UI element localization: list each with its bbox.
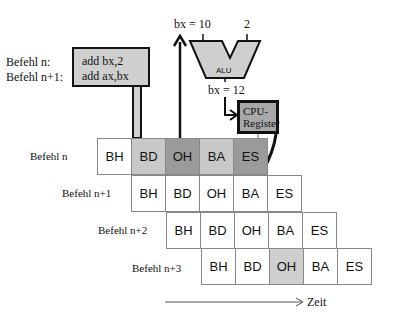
stage-cell: BH (131, 175, 166, 212)
stage-cell: BD (165, 175, 200, 212)
register-label-line2: Register (243, 117, 276, 129)
stage-cell: OH (165, 138, 200, 175)
row-label-n: Befehl n (30, 150, 68, 162)
stage-cell: BH (97, 138, 132, 175)
cpu-register-box: CPU- Register (237, 100, 279, 134)
pipeline-row-n3: BH BD OH BA ES (201, 248, 372, 285)
pipeline-row-n2: BH BD OH BA ES (166, 212, 337, 249)
stage-cell: OH (234, 212, 269, 249)
stage-cell: BA (303, 248, 338, 285)
stage-cell: ES (233, 138, 268, 175)
operand-up-arrow (174, 36, 186, 138)
stage-cell: BD (200, 212, 235, 249)
pipeline-row-n1: BH BD OH BA ES (131, 175, 302, 212)
alu-label: ALU (216, 66, 232, 75)
stage-cell: ES (302, 212, 337, 249)
row-label-n2: Befehl n+2 (98, 224, 147, 236)
row-label-n3: Befehl n+3 (132, 262, 181, 274)
pipeline-row-n: BH BD OH BA ES (97, 138, 268, 175)
time-axis-arrow (165, 298, 303, 306)
register-label-line1: CPU- (243, 105, 276, 117)
stage-cell: BA (268, 212, 303, 249)
time-axis-label: Zeit (307, 295, 326, 310)
stage-cell: BH (166, 212, 201, 249)
stage-cell: BH (201, 248, 236, 285)
stage-cell: BD (235, 248, 270, 285)
stage-cell: BA (199, 138, 234, 175)
stage-cell: ES (337, 248, 372, 285)
alu-to-register-arrow (225, 97, 237, 120)
stage-cell: ES (267, 175, 302, 212)
stage-cell: BD (131, 138, 166, 175)
row-label-n1: Befehl n+1 (62, 187, 111, 199)
stage-cell: OH (269, 248, 304, 285)
stage-cell: OH (199, 175, 234, 212)
stage-cell: BA (233, 175, 268, 212)
